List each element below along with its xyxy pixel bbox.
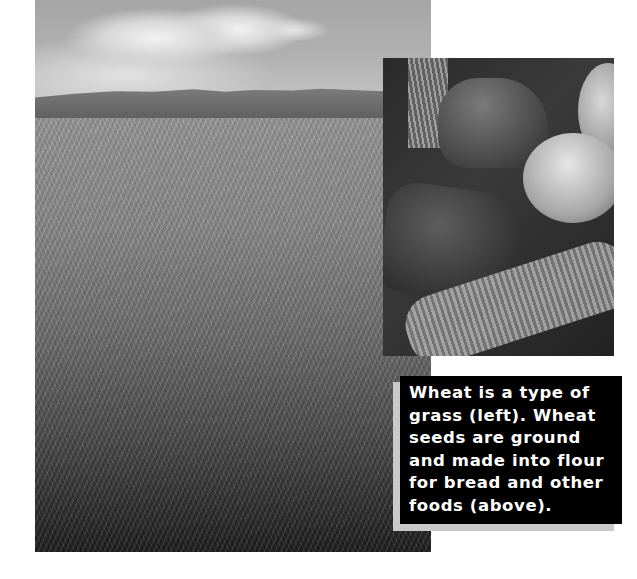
sky-with-clouds bbox=[35, 0, 431, 100]
bread-photo bbox=[383, 58, 614, 356]
bread-loaf bbox=[523, 133, 614, 223]
hills bbox=[35, 88, 431, 120]
caption-box: Wheat is a type of grass (left). Wheat s… bbox=[400, 376, 622, 524]
caption-text: Wheat is a type of grass (left). Wheat s… bbox=[409, 382, 622, 518]
wheat-field bbox=[35, 118, 431, 552]
wheat-field-photo bbox=[35, 0, 431, 552]
